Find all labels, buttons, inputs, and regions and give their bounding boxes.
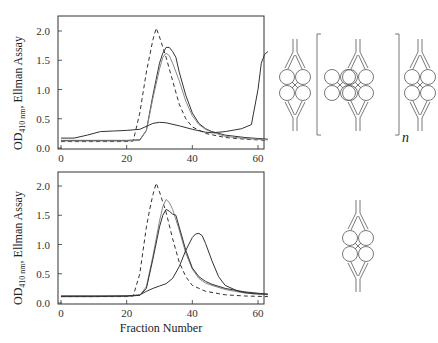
x-axis-title: Fraction Number bbox=[120, 321, 202, 335]
series-line-solid-b bbox=[61, 53, 268, 141]
antibody-dimer-unit bbox=[405, 39, 436, 131]
series-line-solid-c bbox=[61, 52, 268, 139]
x-tick-label: 40 bbox=[187, 307, 199, 319]
bottom-series-group bbox=[61, 183, 268, 297]
series-line-dashed bbox=[61, 183, 268, 297]
x-tick-label: 20 bbox=[121, 307, 133, 319]
bottom-plot-frame bbox=[58, 172, 264, 304]
y-tick-label: 1.0 bbox=[36, 84, 50, 96]
series-line-solid-c bbox=[61, 233, 268, 296]
y-tick-label: 0.0 bbox=[36, 297, 50, 309]
y-tick-label: 0.5 bbox=[36, 113, 50, 125]
x-tick-label: 60 bbox=[253, 307, 265, 319]
antibody-dimer-unit bbox=[325, 70, 356, 101]
x-tick-label: 0 bbox=[58, 152, 64, 164]
y-tick-label: 1.5 bbox=[36, 209, 50, 221]
y-tick-label: 0.5 bbox=[36, 268, 50, 280]
antibody-dimer-unit bbox=[343, 200, 374, 292]
y-tick-label: 1.5 bbox=[36, 54, 50, 66]
top-y-axis-title: OD410 nm, Ellman Assay bbox=[11, 36, 27, 150]
series-line-solid-a bbox=[61, 47, 268, 140]
top-x-axis: 0204060 bbox=[58, 145, 264, 164]
figure-canvas: 0.00.51.01.52.0 0204060 OD410 nm, Ellman… bbox=[0, 0, 438, 343]
top-plot-frame bbox=[58, 16, 264, 149]
top-series-group bbox=[61, 28, 268, 142]
left-bracket bbox=[317, 34, 321, 135]
x-tick-label: 40 bbox=[187, 152, 199, 164]
bottom-panel: 0.00.51.01.52.0 0204060 OD410 nm, Ellman… bbox=[11, 172, 268, 335]
y-tick-label: 2.0 bbox=[36, 25, 50, 37]
bottom-x-axis: 0204060 bbox=[58, 300, 264, 319]
top-panel: 0.00.51.01.52.0 0204060 OD410 nm, Ellman… bbox=[11, 16, 268, 164]
right-bracket bbox=[395, 34, 399, 135]
antibody-dimer-unit bbox=[280, 39, 311, 131]
x-tick-label: 60 bbox=[253, 152, 265, 164]
x-tick-label: 20 bbox=[121, 152, 133, 164]
series-line-dashed bbox=[61, 28, 268, 142]
x-tick-label: 0 bbox=[58, 307, 64, 319]
y-tick-label: 1.0 bbox=[36, 239, 50, 251]
series-line-solid-a bbox=[61, 200, 268, 297]
bottom-y-axis-title: OD410 nm, Ellman Assay bbox=[11, 191, 27, 305]
polymer-diagram: n bbox=[280, 34, 436, 145]
y-tick-label: 0.0 bbox=[36, 142, 50, 154]
repeat-subscript-n: n bbox=[402, 130, 409, 145]
monomer-diagram bbox=[343, 200, 374, 292]
antibody-dimer-unit bbox=[343, 39, 374, 131]
y-tick-label: 2.0 bbox=[36, 180, 50, 192]
series-line-solid-b bbox=[61, 209, 268, 296]
